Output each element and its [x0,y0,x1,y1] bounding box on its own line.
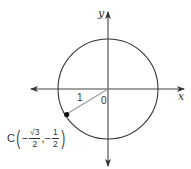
point-c-label: C ( − √3 2 , − 1 2 ) [7,128,66,148]
point-c [64,112,69,117]
y-numerator: 1 [52,128,59,139]
point-name: C [7,132,15,144]
radius-label: 1 [77,93,83,103]
x-denominator: 2 [32,139,37,149]
y-sign: − [45,132,51,144]
x-axis-label: x [178,91,184,102]
right-paren: ) [61,128,65,148]
origin-label: 0 [101,96,107,106]
x-coordinate-fraction: √3 2 [29,128,40,148]
y-coordinate-fraction: 1 2 [52,128,59,148]
x-numerator: √3 [29,128,40,139]
y-axis-label: y [98,8,104,19]
x-sign: − [22,132,28,144]
y-denominator: 2 [53,139,58,149]
left-paren: ( [16,128,20,148]
